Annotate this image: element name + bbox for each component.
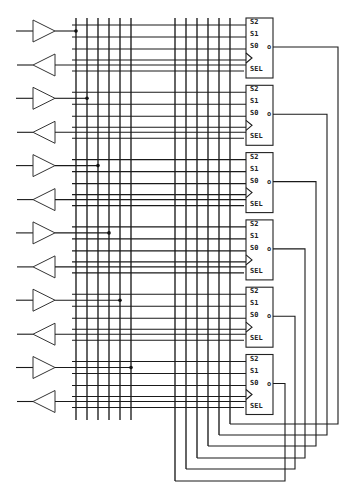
pin-label-s0: S0 bbox=[250, 311, 258, 319]
pin-label-s2: S2 bbox=[250, 220, 258, 228]
pin-label-sel: SEL bbox=[250, 402, 263, 410]
pin-label-sel: SEL bbox=[250, 65, 263, 73]
pin-label-sel: SEL bbox=[250, 334, 263, 342]
junction-dot bbox=[96, 164, 100, 168]
output-bubble: o bbox=[267, 312, 271, 320]
pin-label-s2: S2 bbox=[250, 85, 258, 93]
buffer-icon bbox=[33, 357, 55, 379]
pin-label-s0: S0 bbox=[250, 177, 258, 185]
buffer-icon bbox=[33, 87, 55, 109]
inverter-buffer-icon bbox=[33, 256, 55, 278]
output-bubble: o bbox=[267, 110, 271, 118]
pin-label-s0: S0 bbox=[250, 42, 258, 50]
inverter-buffer-icon bbox=[33, 391, 55, 413]
pin-label-sel: SEL bbox=[250, 267, 263, 275]
pin-label-sel: SEL bbox=[250, 200, 263, 208]
inverter-buffer-icon bbox=[33, 54, 55, 76]
buffer-icon bbox=[33, 289, 55, 311]
pin-label-s1: S1 bbox=[250, 97, 258, 105]
junction-dot bbox=[129, 366, 133, 370]
pin-label-s2: S2 bbox=[250, 153, 258, 161]
junction-dot bbox=[118, 298, 122, 302]
pin-label-s2: S2 bbox=[250, 18, 258, 26]
pin-label-s2: S2 bbox=[250, 355, 258, 363]
junction-dot bbox=[107, 231, 111, 235]
junction-dot bbox=[74, 29, 78, 33]
inverter-buffer-icon bbox=[33, 121, 55, 143]
buffer-icon bbox=[33, 20, 55, 42]
pin-label-s1: S1 bbox=[250, 165, 258, 173]
output-bubble: o bbox=[267, 245, 271, 253]
buffer-icon bbox=[33, 222, 55, 244]
pin-label-s0: S0 bbox=[250, 244, 258, 252]
output-bubble: o bbox=[267, 380, 271, 388]
pin-label-s0: S0 bbox=[250, 379, 258, 387]
inverter-buffer-icon bbox=[33, 323, 55, 345]
junction-dot bbox=[85, 97, 89, 101]
pin-label-s2: S2 bbox=[250, 287, 258, 295]
pin-label-s0: S0 bbox=[250, 109, 258, 117]
pin-label-s1: S1 bbox=[250, 232, 258, 240]
pin-label-s1: S1 bbox=[250, 299, 258, 307]
output-bubble: o bbox=[267, 43, 271, 51]
pin-label-s1: S1 bbox=[250, 367, 258, 375]
pin-label-s1: S1 bbox=[250, 30, 258, 38]
buffer-icon bbox=[33, 155, 55, 177]
inverter-buffer-icon bbox=[33, 189, 55, 211]
circuit-diagram: S2S1S0SELoS2S1S0SELoS2S1S0SELoS2S1S0SELo… bbox=[0, 0, 358, 496]
output-bubble: o bbox=[267, 178, 271, 186]
pin-label-sel: SEL bbox=[250, 132, 263, 140]
